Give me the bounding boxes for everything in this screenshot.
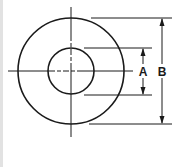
dimension-label-b: B [158,65,167,79]
left-border [0,0,3,167]
b-arrow-down-icon [160,116,165,124]
a-arrow-up-icon [141,48,146,56]
a-arrow-down-icon [141,87,146,95]
dimension-label-a: A [139,65,148,79]
b-arrow-up-icon [160,18,165,26]
washer-diagram: A B [0,0,174,167]
